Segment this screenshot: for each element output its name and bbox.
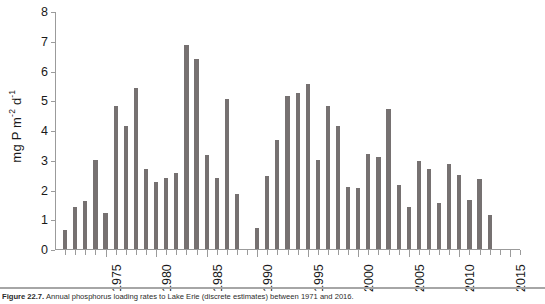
bar bbox=[316, 160, 320, 249]
bar bbox=[225, 99, 229, 249]
figure-container: mg P m-2 d-1 012345678 19751980198519901… bbox=[0, 0, 545, 304]
bar bbox=[397, 185, 401, 249]
bar bbox=[83, 201, 87, 249]
bar bbox=[103, 213, 107, 249]
y-axis-title-exponent-2: -1 bbox=[7, 90, 17, 98]
x-axis-tick bbox=[500, 250, 501, 255]
x-axis-tick bbox=[439, 250, 440, 255]
bar bbox=[477, 179, 481, 249]
x-axis-tick bbox=[166, 250, 167, 255]
y-axis-tick-label: 8 bbox=[41, 6, 48, 19]
x-axis-tick bbox=[267, 250, 268, 255]
y-axis-title: mg P m-2 d-1 bbox=[2, 0, 28, 252]
bar bbox=[488, 215, 492, 249]
y-axis-tick-label: 6 bbox=[41, 65, 48, 78]
x-axis-tick bbox=[186, 250, 187, 255]
y-axis-tick-label: 2 bbox=[41, 184, 48, 197]
x-axis-tick bbox=[136, 250, 137, 255]
x-axis-tick bbox=[520, 250, 521, 255]
bar bbox=[285, 96, 289, 249]
y-axis-tick-label: 4 bbox=[41, 125, 48, 138]
x-axis-tick bbox=[85, 250, 86, 255]
bar bbox=[306, 84, 310, 249]
bar bbox=[356, 188, 360, 249]
x-axis-tick bbox=[399, 250, 400, 255]
bar bbox=[296, 93, 300, 249]
bar bbox=[184, 45, 188, 249]
x-axis-tick bbox=[429, 250, 430, 255]
y-axis-tick-label: 3 bbox=[41, 155, 48, 168]
x-axis-tick bbox=[227, 250, 228, 255]
x-axis-tick bbox=[176, 250, 177, 255]
bar bbox=[366, 154, 370, 249]
bar bbox=[447, 164, 451, 249]
x-axis-tick bbox=[348, 250, 349, 255]
x-axis-tick bbox=[318, 250, 319, 255]
x-axis-tick bbox=[389, 250, 390, 255]
bar bbox=[265, 176, 269, 249]
x-axis-tick bbox=[217, 250, 218, 255]
x-axis-tick bbox=[237, 250, 238, 255]
x-axis-tick bbox=[328, 250, 329, 255]
x-axis-tick bbox=[247, 250, 248, 255]
bar bbox=[275, 140, 279, 249]
y-axis-tick-label: 5 bbox=[41, 95, 48, 108]
x-axis-tick bbox=[490, 250, 491, 255]
bar bbox=[386, 109, 390, 249]
bar bbox=[336, 126, 340, 249]
bar bbox=[457, 175, 461, 249]
caption-divider bbox=[0, 287, 545, 289]
bar bbox=[407, 207, 411, 249]
x-axis-tick bbox=[449, 250, 450, 255]
x-axis-tick bbox=[368, 250, 369, 255]
bar bbox=[93, 160, 97, 249]
x-axis-tick bbox=[75, 250, 76, 255]
bar bbox=[346, 187, 350, 249]
bar bbox=[134, 88, 138, 249]
x-axis-tick bbox=[277, 250, 278, 255]
bar bbox=[63, 230, 67, 249]
caption-text: Annual phosphorus loading rates to Lake … bbox=[46, 292, 354, 301]
bar bbox=[194, 59, 198, 249]
bar bbox=[174, 173, 178, 249]
y-axis-title-exponent-1: -2 bbox=[7, 109, 17, 117]
y-axis-tick-label: 7 bbox=[41, 36, 48, 49]
x-axis-tick bbox=[197, 250, 198, 255]
x-axis-tick bbox=[95, 250, 96, 255]
figure-caption: Figure 22.7. Annual phosphorus loading r… bbox=[2, 292, 543, 301]
bar bbox=[205, 155, 209, 249]
y-axis-tick-label: 0 bbox=[41, 244, 48, 257]
caption-label: Figure 22.7. bbox=[2, 292, 44, 301]
y-axis-title-main: mg P m bbox=[8, 117, 23, 163]
bar bbox=[124, 126, 128, 249]
x-axis-tick bbox=[146, 250, 147, 255]
x-axis-tick bbox=[288, 250, 289, 255]
x-axis-tick bbox=[126, 250, 127, 255]
bar bbox=[326, 106, 330, 249]
bar bbox=[255, 228, 259, 249]
bar bbox=[427, 169, 431, 249]
x-axis-tick bbox=[338, 250, 339, 255]
bar bbox=[114, 106, 118, 249]
plot-area: 012345678 bbox=[55, 12, 520, 250]
bar bbox=[417, 161, 421, 249]
bar bbox=[164, 178, 168, 249]
x-axis-tick bbox=[469, 250, 470, 255]
bar bbox=[467, 200, 471, 249]
y-axis-title-mid: d bbox=[8, 97, 23, 108]
bar bbox=[215, 178, 219, 249]
y-axis-tick-label: 1 bbox=[41, 214, 48, 227]
bar bbox=[376, 157, 380, 249]
x-axis-tick bbox=[378, 250, 379, 255]
x-axis-tick bbox=[419, 250, 420, 255]
x-axis-tick bbox=[65, 250, 66, 255]
bar bbox=[73, 207, 77, 249]
bar bbox=[154, 182, 158, 249]
x-axis-tick bbox=[116, 250, 117, 255]
bar bbox=[144, 169, 148, 249]
x-axis-tick bbox=[298, 250, 299, 255]
bar bbox=[437, 203, 441, 249]
bar-series bbox=[55, 12, 520, 249]
x-axis-tick bbox=[480, 250, 481, 255]
bar bbox=[235, 194, 239, 249]
